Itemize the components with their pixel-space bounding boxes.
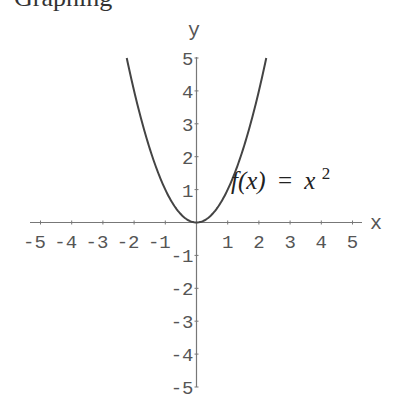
tick-labels: -5-4-3-2-11234554321-1-2-3-4-5 bbox=[23, 49, 358, 400]
function-label: f(x) = x 2 bbox=[231, 164, 330, 195]
y-tick-label: 5 bbox=[182, 49, 193, 71]
y-tick-label: -2 bbox=[171, 279, 194, 301]
x-axis-label: x bbox=[370, 212, 382, 235]
y-tick-label: -4 bbox=[171, 345, 194, 367]
y-tick-label: 3 bbox=[182, 115, 193, 137]
x-tick-label: 1 bbox=[222, 232, 233, 254]
x-tick-label: 2 bbox=[253, 232, 264, 254]
x-tick-label: 3 bbox=[284, 232, 295, 254]
y-tick-label: 1 bbox=[182, 181, 193, 203]
x-tick-label: -2 bbox=[117, 232, 140, 254]
x-tick-label: -1 bbox=[148, 232, 171, 254]
y-axis-label: y bbox=[188, 19, 200, 42]
x-tick-label: -4 bbox=[54, 232, 77, 254]
x-tick-label: 4 bbox=[316, 232, 327, 254]
y-tick-label: 2 bbox=[182, 148, 193, 170]
y-tick-label: 4 bbox=[182, 82, 193, 104]
x-tick-label: 5 bbox=[347, 232, 358, 254]
y-tick-label: -5 bbox=[171, 378, 194, 400]
plot: -5-4-3-2-11234554321-1-2-3-4-5 y x f(x) … bbox=[0, 0, 417, 417]
x-tick-label: -5 bbox=[23, 232, 46, 254]
y-tick-label: -1 bbox=[171, 246, 194, 268]
x-tick-label: -3 bbox=[85, 232, 108, 254]
y-tick-label: -3 bbox=[171, 312, 194, 334]
